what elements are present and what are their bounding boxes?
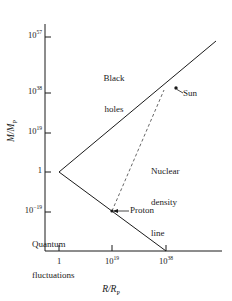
y-tick-exponent-0: 57	[36, 29, 42, 35]
y-tick-mantissa-4: 10	[25, 205, 34, 215]
y-axis-title-sub: P	[11, 120, 18, 123]
nuclear-line-1: Nuclear	[151, 166, 221, 176]
region-label-quantum-fluctuations: Quantum fluctuations	[32, 218, 118, 301]
y-tick-exponent-1: 38	[36, 85, 42, 91]
y-axis-title-main: M/M	[6, 124, 16, 142]
nuclear-line-3: line	[151, 228, 221, 238]
y-axis-title-text: M/MP	[6, 120, 16, 142]
annotation-nuclear-density-line: Nuclear density line	[151, 145, 221, 259]
black-holes-line-1: Black	[84, 73, 144, 83]
y-tick-mantissa-3: 1	[38, 165, 42, 175]
y-tick-label-1: 1038	[6, 87, 42, 97]
region-label-black-holes: Black holes	[84, 52, 144, 135]
y-tick-exponent-4: −19	[33, 204, 42, 210]
y-tick-label-4: 10−19	[3, 206, 42, 216]
y-tick-exponent-2: 19	[36, 125, 42, 131]
y-tick-label-3: 1	[6, 166, 42, 176]
y-axis-title: M/MP	[0, 108, 18, 154]
annotation-proton: Proton	[130, 205, 180, 215]
y-tick-label-0: 1057	[6, 31, 42, 41]
figure-container: 1057 1038 1019 1 10−19 1 1019 1038 M/MP …	[0, 0, 232, 301]
quantum-line-1: Quantum	[32, 239, 118, 249]
annotation-sun: Sun	[183, 88, 223, 98]
black-holes-line-2: holes	[84, 104, 144, 114]
quantum-line-2: fluctuations	[32, 270, 118, 280]
